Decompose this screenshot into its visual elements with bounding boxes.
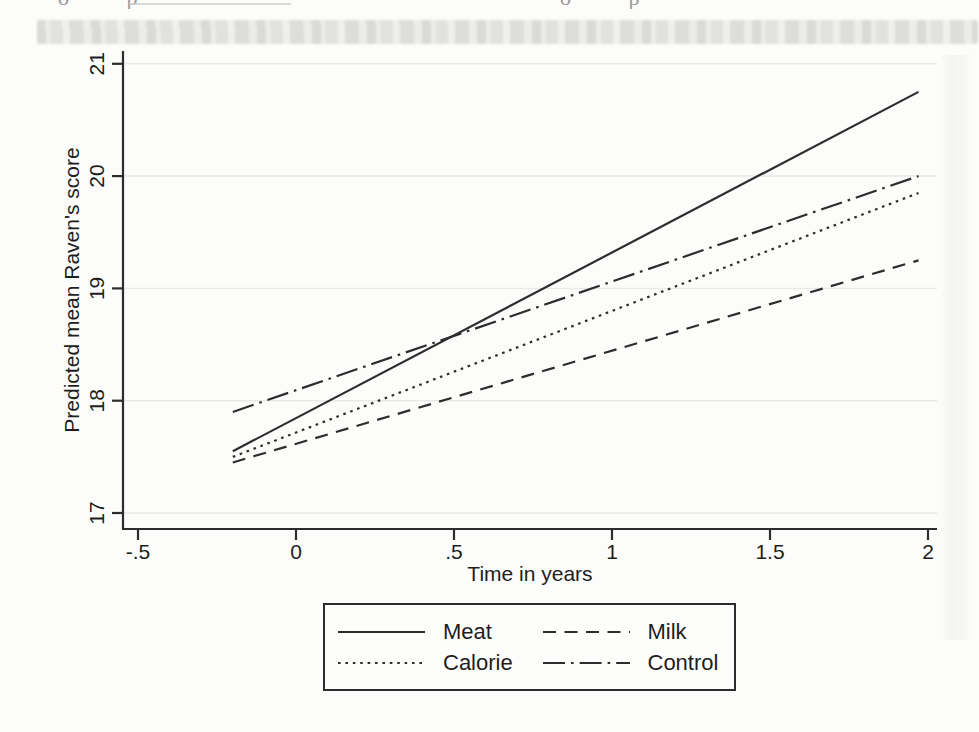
y-tick-label: 19 xyxy=(85,277,108,300)
legend-key-dash-dot xyxy=(543,657,630,669)
x-tick-label: -.5 xyxy=(126,540,151,563)
legend-item-meat: Meat xyxy=(325,621,530,643)
legend-key-solid xyxy=(338,626,425,638)
series-lines xyxy=(233,92,919,463)
legend: MeatMilkCalorieControl xyxy=(323,603,736,691)
y-tick-label: 18 xyxy=(85,389,108,412)
x-tick-label: 0 xyxy=(290,540,302,563)
legend-item-milk: Milk xyxy=(530,621,735,643)
series-line-control xyxy=(233,176,919,412)
x-tick-label: 1.5 xyxy=(755,540,784,563)
x-axis-title: Time in years xyxy=(467,562,592,585)
x-tick-label: 2 xyxy=(922,540,934,563)
legend-item-calorie: Calorie xyxy=(325,652,530,674)
legend-key-dotted xyxy=(338,657,425,669)
series-line-meat xyxy=(233,92,919,451)
x-tick-label: .5 xyxy=(445,540,463,563)
y-tick-label: 17 xyxy=(85,501,108,524)
series-line-calorie xyxy=(233,193,919,457)
y-tick-label: 21 xyxy=(85,52,108,75)
x-axis-ticks: -.50.511.52 xyxy=(126,529,934,563)
series-line-milk xyxy=(233,260,919,462)
x-tick-label: 1 xyxy=(606,540,618,563)
legend-key-dashed xyxy=(543,626,630,638)
legend-item-control: Control xyxy=(530,652,735,674)
legend-label: Control xyxy=(648,652,719,674)
y-axis-ticks: 1718192021 xyxy=(85,52,123,525)
y-tick-label: 20 xyxy=(85,164,108,187)
legend-label: Calorie xyxy=(443,652,513,674)
legend-label: Milk xyxy=(648,621,687,643)
legend-label: Meat xyxy=(443,621,492,643)
y-axis-title: Predicted mean Raven's score xyxy=(60,147,83,432)
